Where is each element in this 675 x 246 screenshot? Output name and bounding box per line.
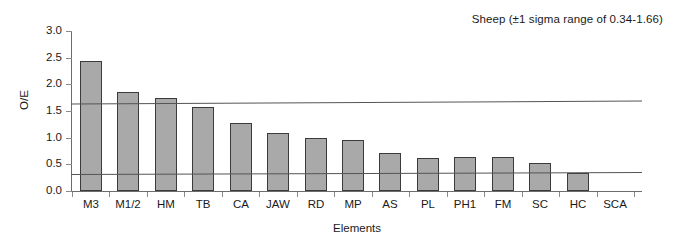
bar-pl <box>417 158 439 191</box>
y-tick-label: 0.5 <box>24 158 62 170</box>
y-tick-label: 2.5 <box>24 52 62 64</box>
x-tick-mark <box>372 192 373 197</box>
bar-m3 <box>80 61 102 191</box>
x-tick-label-sca: SCA <box>588 199 642 211</box>
bar-rd <box>305 138 327 191</box>
y-tick-label: 0.0 <box>24 185 62 197</box>
bar-fm <box>492 157 514 191</box>
y-tick-mark <box>66 138 72 139</box>
bar-ca <box>230 123 252 191</box>
y-tick-mark <box>66 31 72 32</box>
x-tick-mark <box>222 192 223 197</box>
y-tick-label: 1.5 <box>24 105 62 117</box>
y-tick-mark <box>66 58 72 59</box>
x-tick-mark <box>597 192 598 197</box>
bar-tb <box>192 107 214 191</box>
x-tick-mark <box>259 192 260 197</box>
y-tick-label: 1.0 <box>24 132 62 144</box>
x-tick-mark <box>109 192 110 197</box>
bar-hc <box>567 173 589 191</box>
x-tick-mark <box>559 192 560 197</box>
bar-m1-2 <box>117 92 139 191</box>
x-tick-mark <box>447 192 448 197</box>
chart-figure: Sheep (±1 sigma range of 0.34-1.66) O/E … <box>0 0 675 246</box>
x-tick-mark <box>334 192 335 197</box>
y-tick-label: 3.0 <box>24 25 62 37</box>
x-tick-mark <box>484 192 485 197</box>
bar-mp <box>342 140 364 191</box>
bar-hm <box>155 98 177 191</box>
x-tick-mark <box>184 192 185 197</box>
x-tick-mark <box>147 192 148 197</box>
y-tick-mark <box>66 111 72 112</box>
x-tick-mark <box>297 192 298 197</box>
x-axis-line <box>71 191 642 192</box>
x-tick-mark <box>72 192 73 197</box>
y-tick-mark <box>66 164 72 165</box>
y-tick-label: 2.0 <box>24 78 62 90</box>
bar-sc <box>529 163 551 191</box>
bar-jaw <box>267 133 289 191</box>
x-tick-mark <box>634 192 635 197</box>
x-tick-mark <box>522 192 523 197</box>
x-axis-title: Elements <box>72 222 642 234</box>
y-tick-mark <box>66 84 72 85</box>
bar-ph1 <box>454 157 476 191</box>
chart-title: Sheep (±1 sigma range of 0.34-1.66) <box>0 13 663 25</box>
x-tick-mark <box>409 192 410 197</box>
